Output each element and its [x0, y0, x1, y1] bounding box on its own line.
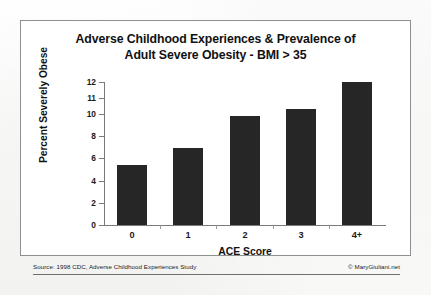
plot-area: [104, 82, 385, 225]
x-axis-tick: [273, 225, 274, 229]
x-axis-tick-label: 1: [168, 230, 208, 240]
chart-page: Adverse Childhood Experiences & Prevalen…: [0, 0, 431, 295]
x-axis-tick-label: 0: [112, 230, 152, 240]
y-axis-tick-label: 2: [80, 199, 96, 207]
y-axis-tick-label: 11: [80, 94, 96, 102]
bar: [117, 165, 147, 225]
y-axis-tick-label: 0: [80, 221, 96, 229]
x-axis-tick-label: 4+: [337, 230, 377, 240]
bar: [342, 82, 372, 225]
bar: [230, 116, 260, 225]
y-axis-tick-label: 12: [80, 78, 96, 86]
footer-divider: [33, 274, 400, 275]
chart-title-line2: Adult Severe Obesity - BMI > 35: [20, 48, 411, 64]
x-axis-tick: [216, 225, 217, 229]
x-axis-line: [104, 225, 386, 226]
y-axis-tick-label: 6: [80, 154, 96, 162]
chart-title: Adverse Childhood Experiences & Prevalen…: [20, 32, 411, 63]
y-axis-tick-label: 10: [80, 110, 96, 118]
x-axis-tick: [160, 225, 161, 229]
x-axis-tick: [329, 225, 330, 229]
y-axis-labels: 02468101112: [78, 82, 96, 226]
x-axis-title: ACE Score: [104, 246, 386, 257]
y-axis-tick-label: 8: [80, 132, 96, 140]
chart-title-line1: Adverse Childhood Experiences & Prevalen…: [76, 32, 356, 46]
y-axis-title: Percent Severely Obese: [37, 43, 51, 167]
copyright-note: © MaryGiuliani.net: [348, 263, 400, 270]
y-axis-tick-label: 4: [80, 177, 96, 185]
source-note: Source: 1998 CDC, Adverse Childhood Expe…: [33, 263, 196, 270]
bar: [286, 109, 316, 225]
bar: [173, 148, 203, 225]
x-axis-tick-label: 3: [281, 230, 321, 240]
x-axis-tick-label: 2: [225, 230, 265, 240]
